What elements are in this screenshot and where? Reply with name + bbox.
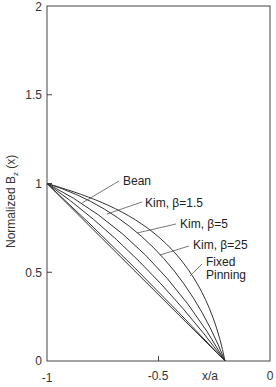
curves	[47, 184, 225, 362]
y-tick-label: 1.5	[25, 88, 42, 102]
x-tick-label: -1	[42, 371, 53, 385]
annotation-kim-1.5: Kim, β=1.5	[145, 196, 203, 210]
annotation-bean: Bean	[123, 174, 151, 188]
x-tick-label: -0.5	[148, 369, 169, 383]
y-tick-label: 1	[35, 177, 42, 191]
leader-kim-25	[160, 246, 189, 255]
svg-text:Normalized Bz (x): Normalized Bz (x)	[4, 155, 20, 248]
x-tick-label: 0	[267, 369, 274, 383]
y-tick-label: 2	[35, 0, 42, 14]
annotation-kim-25: Kim, β=25	[193, 238, 248, 252]
curve-lower	[47, 184, 225, 362]
y-tick-label: 0.5	[25, 266, 42, 280]
annotation-kim-5: Kim, β=5	[180, 217, 228, 231]
leader-bean	[82, 181, 119, 203]
leader-kim-1.5	[107, 202, 142, 214]
annotation-fixed: Fixed	[206, 255, 235, 269]
annotation-pinning: Pinning	[206, 268, 246, 282]
y-axis-label: Normalized Bz (x)	[4, 155, 20, 248]
y-tick-label: 0	[35, 354, 42, 368]
y-axis-label-main: Normalized B	[4, 176, 18, 248]
chart: 2 1.5 1 0.5 0 -1 -0.5 0 x/a Normalized B…	[0, 0, 276, 387]
y-axis-label-suffix: (x)	[4, 155, 18, 172]
x-axis-label: x/a	[202, 369, 218, 383]
plot-frame	[47, 6, 270, 361]
leader-fixed-pinning	[190, 264, 202, 276]
